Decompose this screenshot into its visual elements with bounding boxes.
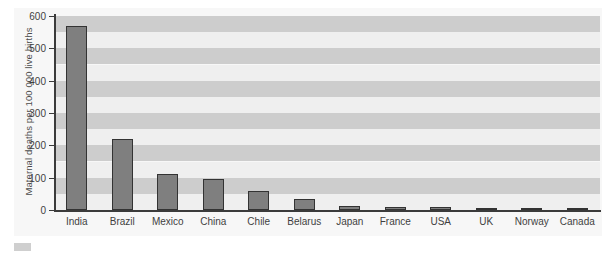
y-tick-label: 500	[29, 43, 46, 54]
grid-band	[54, 113, 600, 129]
grid-band	[54, 65, 600, 81]
grid-band	[54, 145, 600, 161]
x-tick-label: Chile	[247, 216, 270, 227]
bar	[157, 174, 178, 210]
y-tick-label: 100	[29, 172, 46, 183]
x-tick-label: Belarus	[287, 216, 321, 227]
page-corner-mark	[14, 243, 31, 251]
x-tick-label: UK	[479, 216, 493, 227]
y-axis-line	[54, 14, 56, 212]
bar	[294, 199, 315, 210]
y-tick-label: 200	[29, 140, 46, 151]
y-tick-label: 600	[29, 11, 46, 22]
x-tick-label: China	[200, 216, 226, 227]
bar	[385, 207, 406, 210]
grid-band	[54, 162, 600, 178]
y-tick-label: 300	[29, 108, 46, 119]
x-tick-label: USA	[430, 216, 451, 227]
y-tick-mark	[49, 48, 54, 49]
bar	[476, 208, 497, 210]
bar	[567, 208, 588, 210]
grid-band	[54, 97, 600, 113]
bar	[203, 179, 224, 210]
x-tick-label: Canada	[560, 216, 595, 227]
chart-figure: Maternal deaths per 100 000 live births …	[0, 0, 616, 258]
bar	[521, 208, 542, 210]
plot-area: 0100200300400500600 IndiaBrazilMexicoChi…	[54, 16, 600, 210]
y-tick-mark	[49, 178, 54, 179]
y-tick-label: 400	[29, 75, 46, 86]
x-tick-label: Mexico	[152, 216, 184, 227]
x-tick-label: Norway	[515, 216, 549, 227]
grid-band	[54, 16, 600, 32]
y-tick-mark	[49, 113, 54, 114]
grid-band	[54, 129, 600, 145]
bar	[112, 139, 133, 210]
y-tick-mark	[49, 145, 54, 146]
x-tick-label: India	[66, 216, 88, 227]
x-axis-line	[54, 210, 601, 212]
bar	[66, 26, 87, 210]
x-tick-label: Japan	[336, 216, 363, 227]
grid-band	[54, 48, 600, 64]
grid-band	[54, 81, 600, 97]
grid-band	[54, 32, 600, 48]
x-tick-label: France	[380, 216, 411, 227]
bar	[339, 206, 360, 210]
y-tick-label: 0	[40, 205, 46, 216]
bar	[248, 191, 269, 210]
bar	[430, 207, 451, 210]
grid-band	[54, 194, 600, 210]
x-tick-label: Brazil	[110, 216, 135, 227]
grid-band	[54, 178, 600, 194]
y-tick-mark	[49, 210, 54, 211]
y-tick-mark	[49, 16, 54, 17]
y-tick-mark	[49, 81, 54, 82]
